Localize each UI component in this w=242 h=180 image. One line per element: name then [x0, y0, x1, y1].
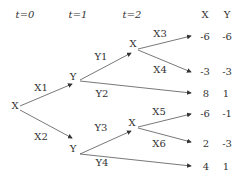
payoff-header-x: X [201, 10, 208, 20]
payoff-y: 1 [223, 89, 229, 99]
edge-label-x4: X4 [153, 65, 166, 75]
payoff-y: 1 [223, 162, 229, 172]
payoff-x: 2 [203, 139, 209, 149]
edge-label-x1: X1 [34, 83, 47, 93]
payoff-header-y: Y [224, 10, 231, 20]
edge-label-y4: Y4 [96, 158, 109, 168]
edge-y3 [80, 131, 131, 154]
time-label-t0: t=0 [16, 10, 35, 20]
node-t1-bottom: Y [70, 144, 77, 154]
node-t1-top: Y [70, 72, 77, 82]
edge-label-x6: X6 [152, 139, 165, 149]
edge-label-x5: X5 [152, 107, 165, 117]
payoff-x: 8 [203, 89, 209, 99]
payoff-x: 4 [203, 162, 209, 172]
node-t2-bottom: X [128, 118, 135, 128]
edge-label-y3: Y3 [95, 123, 108, 133]
time-label-t1: t=1 [69, 10, 88, 20]
payoff-x: -6 [200, 32, 210, 42]
payoff-x: -6 [200, 109, 210, 119]
payoff-y: -3 [222, 139, 232, 149]
payoff-y: -6 [222, 32, 232, 42]
edge-label-y1: Y1 [95, 52, 108, 62]
payoff-y: -3 [222, 67, 232, 77]
time-label-t2: t=2 [123, 10, 142, 20]
node-root: X [11, 101, 18, 111]
payoff-x: -3 [200, 67, 210, 77]
edge-label-x3: X3 [153, 29, 166, 39]
edge-label-y2: Y2 [96, 89, 109, 99]
edge-label-x2: X2 [34, 132, 47, 142]
node-t2-top: X [129, 39, 136, 49]
payoff-y: -1 [222, 109, 232, 119]
